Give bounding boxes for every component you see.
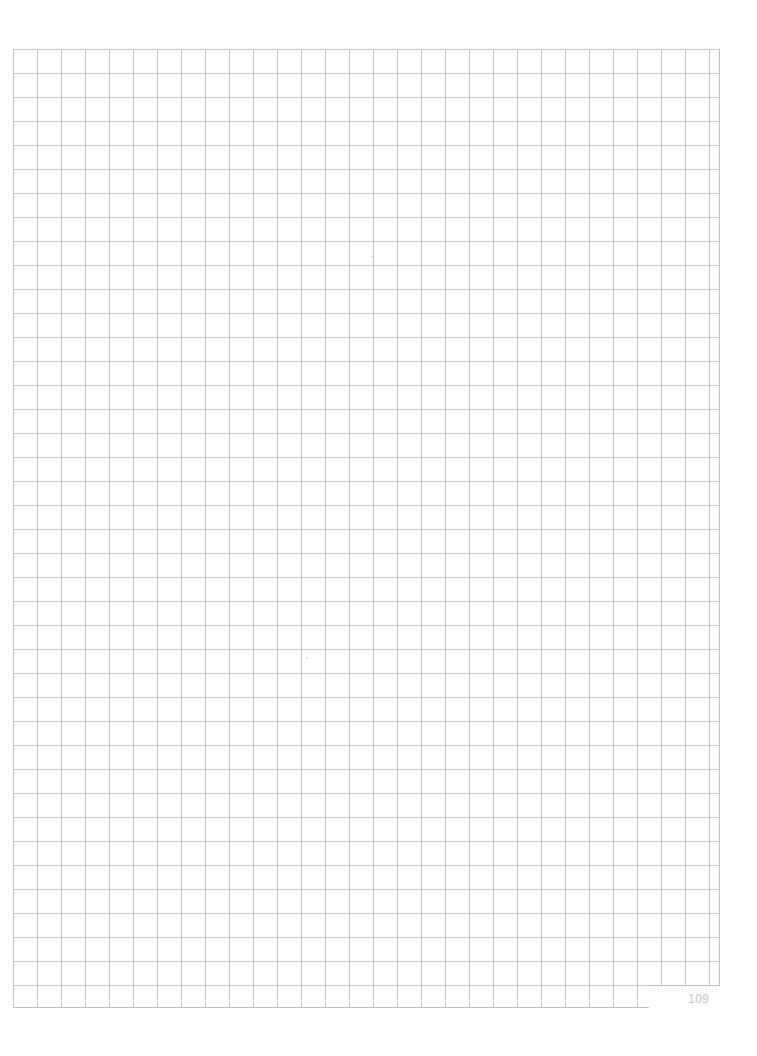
page-number: 109 <box>688 992 710 1006</box>
page-sheet: 109 <box>0 0 757 1056</box>
graph-paper-grid <box>13 49 720 1008</box>
grid-lines <box>13 49 720 1008</box>
